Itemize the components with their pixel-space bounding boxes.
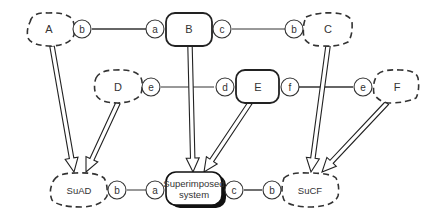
- port-SuCF-b-label: b: [269, 185, 275, 196]
- node-A-label: A: [45, 23, 53, 35]
- port-B-a-label: a: [152, 24, 158, 35]
- arrow-C-to-SuCF: [306, 46, 330, 172]
- node-SuAD-label: SuAD: [67, 185, 92, 196]
- port-C-b-label: b: [291, 24, 297, 35]
- superposition-diagram: A B C D E F SuAD Superimposed system SuC…: [0, 0, 445, 220]
- arrow-A-to-SuAD: [50, 46, 78, 172]
- arrow-D-to-SuAD: [86, 102, 120, 172]
- port-B-c-label: c: [220, 24, 225, 35]
- node-F-label: F: [394, 81, 401, 93]
- arrow-E-to-Super: [204, 102, 252, 172]
- node-superimposed-label-line2: system: [179, 189, 209, 200]
- node-D-label: D: [114, 81, 122, 93]
- node-C-label: C: [324, 23, 332, 35]
- port-SuAD-b-label: b: [114, 185, 120, 196]
- port-A-b-label: b: [79, 24, 85, 35]
- arrow-F-to-SuCF: [322, 102, 389, 173]
- node-SuCF-label: SuCF: [298, 185, 322, 196]
- node-E-label: E: [254, 81, 261, 93]
- arrow-B-to-Super: [186, 46, 199, 172]
- port-D-e-label: e: [148, 82, 154, 93]
- port-F-e-label: e: [360, 82, 366, 93]
- port-E-f-label: f: [289, 82, 292, 93]
- port-Super-a-label: a: [152, 185, 158, 196]
- port-Super-c-label: c: [232, 185, 237, 196]
- port-E-d-label: d: [222, 82, 228, 93]
- node-superimposed-label-line1: Superimposed: [163, 178, 224, 189]
- node-B-label: B: [185, 23, 192, 35]
